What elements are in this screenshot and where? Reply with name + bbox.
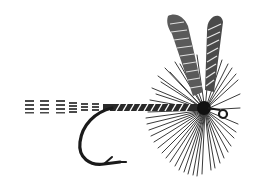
body: [110, 104, 206, 111]
fishing-fly-illustration: [0, 0, 257, 196]
